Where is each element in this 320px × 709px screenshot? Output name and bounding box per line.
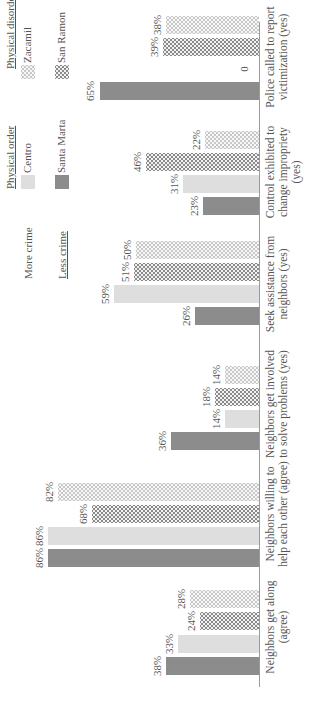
bar-zacamil <box>205 131 259 149</box>
value-label: 31% <box>168 164 180 204</box>
value-label: 38% <box>151 646 163 686</box>
legend: More crime Less crime Physical order Phy… <box>0 0 60 709</box>
category-label: Seek assistance fromneighbors (yes) <box>264 224 290 344</box>
bar-san-ramon <box>134 263 259 281</box>
legend-item-san-ramon: San Ramon <box>55 12 69 79</box>
value-label: 65% <box>84 71 96 111</box>
value-label: 86% <box>33 516 45 556</box>
value-label: 0 <box>238 49 250 89</box>
legend-col-physical-disorder: Physical disorder <box>4 0 16 69</box>
value-label: 38% <box>151 5 163 45</box>
legend-col-physical-order: Physical order <box>4 126 16 189</box>
x-axis-line <box>259 22 260 687</box>
legend-item-centro: Centro <box>21 143 35 189</box>
legend-row-more-crime: More crime <box>22 227 34 279</box>
value-label: 26% <box>180 296 192 336</box>
bar-san-ramon <box>200 612 259 630</box>
category-label: Control exhibited tochange impropriety(y… <box>264 112 303 232</box>
legend-item-zacamil: Zacamil <box>21 27 35 79</box>
bar-santa-marta <box>166 657 259 675</box>
value-label: 22% <box>190 120 202 160</box>
bar-santa-marta <box>48 549 259 567</box>
zacamil-swatch <box>21 65 35 79</box>
value-label: 28% <box>175 579 187 619</box>
centro-swatch <box>21 175 35 189</box>
value-label: 50% <box>121 230 133 270</box>
bar-zacamil <box>190 590 259 608</box>
bar-santa-marta <box>203 197 259 215</box>
bar-zacamil <box>225 366 259 384</box>
bar-santa-marta <box>100 82 259 100</box>
legend-item-santa-marta: Santa Marta <box>55 120 69 189</box>
bar-centro <box>225 410 259 428</box>
chart-canvas: More crime Less crime Physical order Phy… <box>0 0 320 709</box>
category-label: Neighbors get involvedto solve problems … <box>264 339 290 469</box>
value-label: 36% <box>156 421 168 461</box>
value-label: 68% <box>77 494 89 534</box>
bar-san-ramon <box>92 505 259 523</box>
san-ramon-swatch <box>55 65 69 79</box>
value-label: 82% <box>43 472 55 512</box>
bar-san-ramon <box>146 153 259 171</box>
santa-marta-swatch <box>55 175 69 189</box>
value-label: 14% <box>210 355 222 395</box>
value-label: 46% <box>131 142 143 182</box>
legend-row-less-crime: Less crime <box>56 231 68 279</box>
value-label: 59% <box>99 274 111 314</box>
bar-zacamil <box>136 241 259 259</box>
value-label: 33% <box>163 624 175 664</box>
value-label: 23% <box>188 186 200 226</box>
bar-zacamil <box>166 16 259 34</box>
category-label: Police called to reportvictimization (ye… <box>264 0 290 117</box>
category-label: Neighbors get along(agree) <box>264 567 290 687</box>
bar-santa-marta <box>195 307 259 325</box>
